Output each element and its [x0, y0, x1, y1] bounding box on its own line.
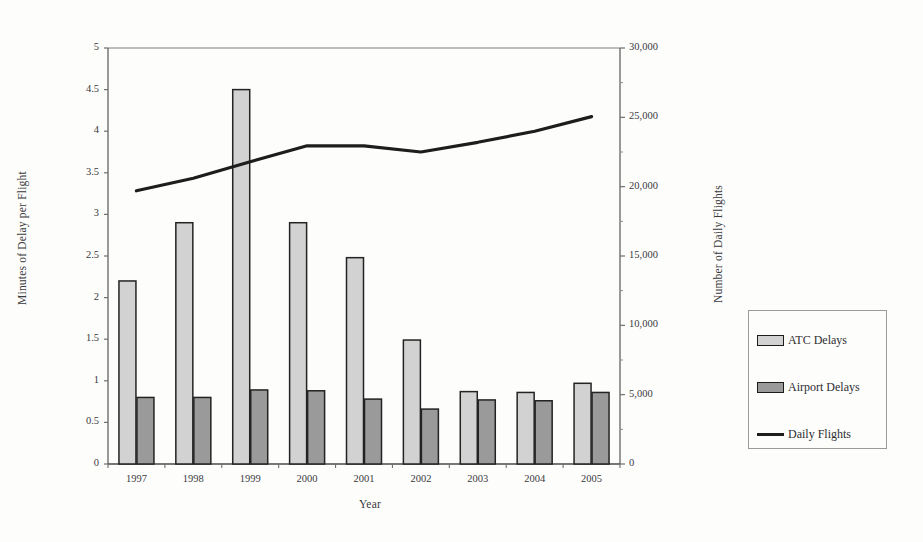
- legend-swatch-icon-atc: [757, 335, 784, 346]
- bar-atc-delays-2002: [403, 340, 420, 464]
- bar-airport-delays-1997: [137, 397, 154, 464]
- y-tick-label: 3: [59, 207, 99, 218]
- plot-area: [0, 0, 923, 542]
- bar-airport-delays-2003: [478, 400, 495, 464]
- daily-flights-line: [136, 117, 591, 191]
- bar-atc-delays-1998: [176, 223, 193, 464]
- x-tick-label: 2005: [562, 473, 622, 484]
- legend-item-daily-flights: Daily Flights: [757, 427, 851, 442]
- legend-item-atc-delays: ATC Delays: [757, 333, 847, 348]
- y2-tick-label: 20,000: [629, 180, 681, 191]
- legend-label-flights: Daily Flights: [788, 427, 851, 442]
- bar-airport-delays-1998: [194, 397, 211, 464]
- y2-tick-label: 30,000: [629, 41, 681, 52]
- y-tick-label: 4.5: [59, 83, 99, 94]
- x-tick-label: 1998: [163, 473, 223, 484]
- y2-tick-label: 5,000: [629, 388, 681, 399]
- y-tick-label: 2.5: [59, 249, 99, 260]
- x-tick-label: 2002: [391, 473, 451, 484]
- bar-atc-delays-1999: [233, 90, 250, 464]
- chart-figure: Minutes of Delay per Flight Number of Da…: [0, 0, 923, 542]
- legend-line-icon-flights: [757, 433, 784, 436]
- y-tick-label: 3.5: [59, 166, 99, 177]
- bar-airport-delays-2004: [535, 401, 552, 464]
- y-tick-label: 0: [59, 457, 99, 468]
- bar-atc-delays-2000: [290, 223, 307, 464]
- x-tick-label: 2004: [505, 473, 565, 484]
- bar-airport-delays-2002: [421, 409, 438, 464]
- y2-tick-label: 25,000: [629, 110, 681, 121]
- bar-airport-delays-2005: [592, 392, 609, 464]
- y2-tick-label: 15,000: [629, 249, 681, 260]
- x-tick-label: 2001: [334, 473, 394, 484]
- y-tick-label: 1: [59, 374, 99, 385]
- x-tick-label: 2003: [448, 473, 508, 484]
- y2-tick-label: 10,000: [629, 318, 681, 329]
- y-tick-label: 5: [59, 41, 99, 52]
- legend-swatch-icon-airport: [757, 382, 784, 393]
- y-tick-label: 4: [59, 124, 99, 135]
- x-tick-label: 1997: [106, 473, 166, 484]
- bar-atc-delays-2001: [347, 258, 364, 464]
- legend-label-atc: ATC Delays: [788, 333, 847, 348]
- y-tick-label: 2: [59, 291, 99, 302]
- x-tick-label: 1999: [220, 473, 280, 484]
- x-tick-label: 2000: [277, 473, 337, 484]
- line-daily-flights: [136, 117, 591, 191]
- bar-atc-delays-2004: [517, 392, 534, 464]
- chart-legend: ATC Delays Airport Delays Daily Flights: [748, 310, 887, 449]
- bar-atc-delays-2005: [574, 383, 591, 464]
- bar-airport-delays-2001: [365, 399, 382, 464]
- legend-item-airport-delays: Airport Delays: [757, 380, 860, 395]
- y2-tick-label: 0: [629, 457, 681, 468]
- bar-airport-delays-1999: [251, 390, 268, 464]
- y-tick-label: 0.5: [59, 415, 99, 426]
- legend-label-airport: Airport Delays: [788, 380, 860, 395]
- bar-atc-delays-2003: [460, 392, 477, 464]
- y-tick-label: 1.5: [59, 332, 99, 343]
- bar-airport-delays-2000: [308, 391, 325, 464]
- bar-atc-delays-1997: [119, 281, 136, 464]
